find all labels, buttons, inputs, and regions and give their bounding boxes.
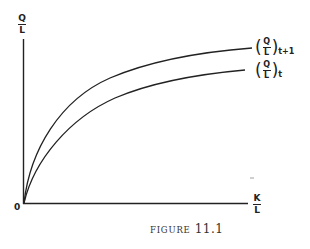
- open-paren: (: [255, 39, 262, 56]
- close-paren: ): [272, 39, 279, 56]
- caption-word: FIGURE: [150, 225, 191, 235]
- y-axis-label-denominator: L: [19, 26, 25, 35]
- lower-curve-label-fraction: Q L: [263, 61, 271, 80]
- upper-curve-label-fraction: Q L: [263, 38, 271, 57]
- y-axis-label-numerator: Q: [18, 14, 26, 23]
- upper-curve-label-numerator: Q: [263, 38, 270, 46]
- y-axis-label: Q L: [18, 14, 26, 35]
- upper-curve: [24, 48, 252, 203]
- x-axis-label: K L: [253, 194, 261, 215]
- x-axis-label-denominator: L: [254, 206, 260, 215]
- production-function-figure: Q L K L 0 ( Q L ) t+1 ( Q L ) t FIGURE 1…: [0, 0, 310, 249]
- lower-curve: [24, 70, 245, 203]
- x-axis-label-numerator: K: [254, 194, 261, 203]
- lower-curve-label-numerator: Q: [263, 61, 270, 69]
- lower-curve-label-denominator: L: [264, 72, 269, 80]
- close-paren: ): [272, 62, 279, 79]
- open-paren: (: [255, 62, 262, 79]
- upper-curve-label: ( Q L ) t+1: [255, 38, 294, 57]
- caption-number: 11.1: [195, 222, 224, 236]
- upper-curve-label-denominator: L: [264, 49, 269, 57]
- lower-curve-subscript: t: [278, 70, 282, 79]
- origin-label: 0: [14, 202, 20, 212]
- upper-curve-subscript: t+1: [278, 47, 294, 56]
- lower-curve-label: ( Q L ) t: [255, 61, 282, 80]
- figure-caption: FIGURE 11.1: [150, 222, 223, 236]
